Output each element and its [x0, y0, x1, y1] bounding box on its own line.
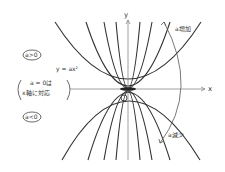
a-decrease-label: a減少: [168, 132, 184, 138]
parabola-a-mid-negative: [88, 93, 170, 161]
x-axis-label: x: [208, 86, 212, 93]
origin-point: [120, 87, 136, 91]
note-line-2: x軸に対応: [22, 90, 50, 96]
note-line-1: a = 0は: [30, 80, 52, 86]
equation-label: y = ax²: [56, 66, 78, 72]
case-positive-label: a>0: [25, 52, 38, 58]
parabola-diagram: [0, 0, 225, 172]
note-right-paren: [67, 80, 70, 100]
a-increase-label: a増加: [175, 26, 191, 32]
case-negative-label: a<0: [25, 114, 38, 120]
y-axis-label: y: [124, 12, 128, 19]
note-left-paren: [18, 80, 21, 100]
arrow-up-icon: [161, 22, 166, 26]
